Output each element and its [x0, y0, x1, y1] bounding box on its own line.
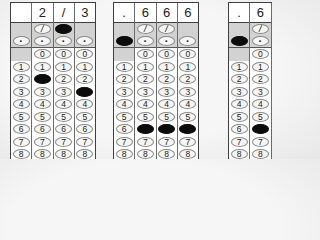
digit-bubble-0[interactable]: 0	[252, 49, 269, 59]
decimal-bubble[interactable]: ·	[76, 36, 93, 46]
digit-bubble-1[interactable]: 1	[137, 62, 154, 72]
decimal-bubble[interactable]: ·	[55, 36, 72, 46]
digit-bubble-4[interactable]: 4	[116, 99, 133, 109]
digit-bubble-7[interactable]: 7	[252, 137, 269, 147]
decimal-bubble[interactable]: ·	[13, 36, 30, 46]
digit-bubble-3[interactable]: 3	[179, 87, 196, 97]
slash-bubble[interactable]: /	[34, 24, 51, 34]
digit-bubble-4[interactable]: 4	[252, 99, 269, 109]
digit-bubble-4[interactable]: 4	[55, 99, 72, 109]
answer-cell[interactable]	[272, 3, 273, 23]
digit-bubble-7[interactable]: 7	[55, 137, 72, 147]
slash-bubble[interactable]: /	[137, 24, 154, 34]
digit-bubble-2[interactable]: 2	[252, 74, 269, 84]
digit-bubble-0[interactable]: 0	[34, 49, 51, 59]
digit-bubble-3[interactable]: 3	[231, 87, 248, 97]
digit-bubble-6[interactable]: 6	[158, 124, 175, 134]
decimal-bubble[interactable]: ·	[137, 36, 154, 46]
digit-bubble-3[interactable]: 3	[116, 87, 133, 97]
decimal-bubble[interactable]: ·	[231, 36, 248, 46]
digit-bubble-3[interactable]: 3	[13, 87, 30, 97]
digit-bubble-2[interactable]: 2	[34, 74, 51, 84]
digit-bubble-4[interactable]: 4	[34, 99, 51, 109]
digit-bubble-1[interactable]: 1	[179, 62, 196, 72]
digit-bubble-8[interactable]: 8	[13, 149, 30, 159]
answer-cell[interactable]: .	[229, 3, 249, 23]
digit-bubble-5[interactable]: 5	[137, 112, 154, 122]
decimal-bubble[interactable]: ·	[116, 36, 133, 46]
digit-bubble-0[interactable]: 0	[55, 49, 72, 59]
digit-bubble-5[interactable]: 5	[76, 112, 93, 122]
digit-bubble-7[interactable]: 7	[116, 137, 133, 147]
digit-bubble-7[interactable]: 7	[13, 137, 30, 147]
digit-bubble-6[interactable]: 6	[137, 124, 154, 134]
digit-bubble-5[interactable]: 5	[13, 112, 30, 122]
digit-bubble-7[interactable]: 7	[76, 137, 93, 147]
digit-bubble-4[interactable]: 4	[231, 99, 248, 109]
digit-bubble-3[interactable]: 3	[137, 87, 154, 97]
digit-bubble-6[interactable]: 6	[179, 124, 196, 134]
decimal-bubble[interactable]: ·	[34, 36, 51, 46]
digit-bubble-4[interactable]: 4	[76, 99, 93, 109]
digit-bubble-6[interactable]: 6	[34, 124, 51, 134]
digit-bubble-6[interactable]: 6	[116, 124, 133, 134]
digit-bubble-3[interactable]: 3	[55, 87, 72, 97]
answer-cell[interactable]: 2	[32, 3, 52, 23]
digit-bubble-5[interactable]: 5	[252, 112, 269, 122]
digit-bubble-2[interactable]: 2	[231, 74, 248, 84]
digit-bubble-5[interactable]: 5	[158, 112, 175, 122]
digit-bubble-0[interactable]: 0	[76, 49, 93, 59]
digit-bubble-4[interactable]: 4	[179, 99, 196, 109]
digit-bubble-6[interactable]: 6	[13, 124, 30, 134]
digit-bubble-0[interactable]: 0	[158, 49, 175, 59]
digit-bubble-7[interactable]: 7	[179, 137, 196, 147]
digit-bubble-2[interactable]: 2	[55, 74, 72, 84]
answer-cell[interactable]: 6	[178, 3, 198, 23]
answer-cell[interactable]	[11, 3, 31, 23]
digit-bubble-1[interactable]: 1	[252, 62, 269, 72]
digit-bubble-1[interactable]: 1	[76, 62, 93, 72]
digit-bubble-2[interactable]: 2	[137, 74, 154, 84]
digit-bubble-0[interactable]: 0	[137, 49, 154, 59]
digit-bubble-8[interactable]: 8	[137, 149, 154, 159]
digit-bubble-1[interactable]: 1	[158, 62, 175, 72]
digit-bubble-5[interactable]: 5	[55, 112, 72, 122]
digit-bubble-7[interactable]: 7	[137, 137, 154, 147]
digit-bubble-4[interactable]: 4	[13, 99, 30, 109]
answer-cell[interactable]: /	[54, 3, 74, 23]
decimal-bubble[interactable]: ·	[158, 36, 175, 46]
digit-bubble-8[interactable]: 8	[76, 149, 93, 159]
digit-bubble-2[interactable]: 2	[13, 74, 30, 84]
digit-bubble-4[interactable]: 4	[158, 99, 175, 109]
digit-bubble-2[interactable]: 2	[116, 74, 133, 84]
answer-cell[interactable]: .	[114, 3, 134, 23]
decimal-bubble[interactable]: ·	[179, 36, 196, 46]
digit-bubble-8[interactable]: 8	[34, 149, 51, 159]
digit-bubble-8[interactable]: 8	[179, 149, 196, 159]
digit-bubble-8[interactable]: 8	[158, 149, 175, 159]
slash-bubble[interactable]: /	[55, 24, 72, 34]
digit-bubble-8[interactable]: 8	[116, 149, 133, 159]
digit-bubble-1[interactable]: 1	[231, 62, 248, 72]
digit-bubble-2[interactable]: 2	[76, 74, 93, 84]
digit-bubble-3[interactable]: 3	[34, 87, 51, 97]
digit-bubble-6[interactable]: 6	[76, 124, 93, 134]
digit-bubble-1[interactable]: 1	[34, 62, 51, 72]
slash-bubble[interactable]: /	[158, 24, 175, 34]
digit-bubble-4[interactable]: 4	[137, 99, 154, 109]
digit-bubble-0[interactable]: 0	[179, 49, 196, 59]
digit-bubble-6[interactable]: 6	[231, 124, 248, 134]
decimal-bubble[interactable]: ·	[252, 36, 269, 46]
digit-bubble-3[interactable]: 3	[158, 87, 175, 97]
digit-bubble-6[interactable]: 6	[252, 124, 269, 134]
answer-cell[interactable]: 3	[75, 3, 95, 23]
digit-bubble-2[interactable]: 2	[179, 74, 196, 84]
digit-bubble-7[interactable]: 7	[158, 137, 175, 147]
digit-bubble-5[interactable]: 5	[179, 112, 196, 122]
digit-bubble-7[interactable]: 7	[231, 137, 248, 147]
digit-bubble-5[interactable]: 5	[34, 112, 51, 122]
digit-bubble-1[interactable]: 1	[13, 62, 30, 72]
digit-bubble-1[interactable]: 1	[55, 62, 72, 72]
answer-cell[interactable]: 6	[250, 3, 270, 23]
digit-bubble-5[interactable]: 5	[116, 112, 133, 122]
